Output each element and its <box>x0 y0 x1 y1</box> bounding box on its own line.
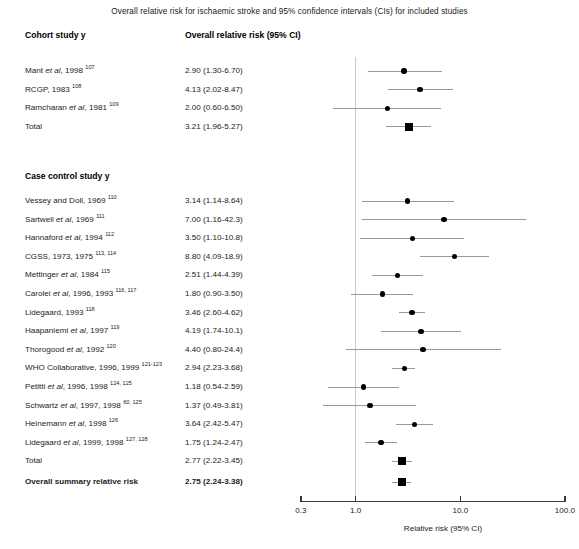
point-estimate-marker <box>418 329 423 334</box>
row-value: 1.80 (0.90-3.50) <box>185 289 243 299</box>
row-value: 1.37 (0.49-3.81) <box>185 401 243 411</box>
point-estimate-marker <box>405 198 410 203</box>
row-value: 2.94 (2.23-3.68) <box>185 363 243 373</box>
point-estimate-marker <box>412 422 417 427</box>
row-value: 2.00 (0.60-6.50) <box>185 103 243 113</box>
page-title: Overall relative risk for ischaemic stro… <box>0 7 579 16</box>
row-study-label: Sartwell et al, 1969 111 <box>25 215 105 225</box>
x-axis-tick <box>355 496 356 502</box>
row-study-label: Ramcharan et al, 1981 109 <box>25 103 119 113</box>
row-study-label: RCGP, 1983 108 <box>25 85 81 95</box>
row-study-label: CGSS, 1973, 1975 113, 114 <box>25 252 116 262</box>
x-axis-title: Relative risk (95% CI) <box>404 524 482 533</box>
row-study-label: Petitti et al, 1996, 1998 124, 125 <box>25 382 132 392</box>
column-header-relative-risk: Overall relative risk (95% CI) <box>185 30 301 40</box>
row-study-label: Vessey and Doll, 1969 110 <box>25 196 117 206</box>
row-study-label: Total <box>25 456 42 466</box>
row-study-label: Overall summary relative risk <box>25 477 138 487</box>
row-study-label: Lidegaard et al, 1999, 1998 127, 128 <box>25 438 148 448</box>
row-study-label: Mettinger et al, 1984 115 <box>25 270 110 280</box>
point-estimate-marker <box>385 106 390 111</box>
row-value: 4.40 (0.80-24.4) <box>185 345 243 355</box>
x-axis-tick-label: 100.0 <box>555 506 575 515</box>
row-study-label: Mant et al, 1998 107 <box>25 66 95 76</box>
row-study-label: Schwartz et al, 1997, 1998 60, 125 <box>25 401 142 411</box>
summary-marker-square <box>398 457 406 465</box>
row-value: 3.46 (2.60-4.62) <box>185 308 243 318</box>
row-study-label: Haapaniemi et al, 1997 119 <box>25 326 119 336</box>
row-study-label: Hannaford et al, 1994 112 <box>25 233 114 243</box>
section-heading-case-control-study-y: Case control study y <box>25 171 110 181</box>
point-estimate-marker <box>401 68 406 73</box>
row-study-label: Thorogood et al, 1992 120 <box>25 345 116 355</box>
row-value: 2.77 (2.22-3.45) <box>185 456 243 466</box>
point-estimate-marker <box>380 291 385 296</box>
row-value: 3.50 (1.10-10.8) <box>185 233 243 243</box>
row-value: 3.14 (1.14-8.64) <box>185 196 243 206</box>
x-axis-tick-label: 10.0 <box>452 506 468 515</box>
row-value: 8.80 (4.09-18.9) <box>185 252 243 262</box>
row-study-label: Total <box>25 122 42 132</box>
point-estimate-marker <box>361 384 366 389</box>
point-estimate-marker <box>410 236 415 241</box>
point-estimate-marker <box>395 273 400 278</box>
row-study-label: Carolei et al, 1996, 1993 116, 117 <box>25 289 136 299</box>
x-axis-tick <box>300 496 301 502</box>
x-axis-tick <box>460 496 461 502</box>
row-value: 3.64 (2.42-5.47) <box>185 419 243 429</box>
row-value: 1.18 (0.54-2.59) <box>185 382 243 392</box>
column-header-study: Cohort study y <box>25 30 86 40</box>
row-study-label: WHO Collaborative, 1996, 1999 121-123 <box>25 363 162 373</box>
summary-marker-square <box>405 123 413 131</box>
x-axis-tick-label: 1.0 <box>350 506 361 515</box>
row-value: 2.51 (1.44-4.39) <box>185 270 243 280</box>
reference-line-1 <box>355 57 356 501</box>
row-value: 2.75 (2.24-3.38) <box>185 477 243 487</box>
row-study-label: Heinemann et al, 1998 126 <box>25 419 118 429</box>
point-estimate-marker <box>417 87 422 92</box>
x-axis-line <box>301 501 565 502</box>
row-value: 4.13 (2.02-8.47) <box>185 85 243 95</box>
point-estimate-marker <box>441 217 446 222</box>
x-axis-tick-label: 0.3 <box>295 506 306 515</box>
point-estimate-marker <box>409 310 414 315</box>
forest-plot: Overall relative risk for ischaemic stro… <box>0 0 579 549</box>
point-estimate-marker <box>452 254 457 259</box>
point-estimate-marker <box>378 440 383 445</box>
row-value: 4.19 (1.74-10.1) <box>185 326 243 336</box>
point-estimate-marker <box>420 347 425 352</box>
row-value: 1.75 (1.24-2.47) <box>185 438 243 448</box>
row-value: 3.21 (1.96-5.27) <box>185 122 243 132</box>
point-estimate-marker <box>367 403 372 408</box>
row-value: 2.90 (1.30-6.70) <box>185 66 243 76</box>
row-study-label: Lidegaard, 1993 118 <box>25 308 95 318</box>
point-estimate-marker <box>402 366 407 371</box>
row-value: 7.00 (1.16-42.3) <box>185 215 243 225</box>
x-axis-tick <box>564 496 565 502</box>
summary-marker-square <box>398 478 406 486</box>
